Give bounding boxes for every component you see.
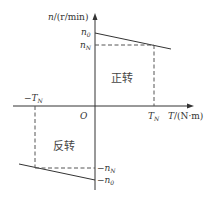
neg-n0-label: −n0 — [97, 175, 114, 186]
reverse-characteristic-line — [19, 164, 95, 180]
y-axis-arrow-icon — [93, 13, 98, 20]
n-t-characteristic-diagram: n/(r/min) T/(N·m) O n0 nN TN −TN −nN −n0… — [0, 0, 209, 198]
forward-characteristic-line — [95, 33, 171, 49]
nN-label: nN — [80, 40, 92, 51]
neg-nN-label: −nN — [97, 163, 116, 174]
x-axis-arrow-icon — [187, 104, 194, 109]
x-axis-label: T/(N·m) — [168, 111, 203, 121]
x-axis — [13, 104, 194, 109]
neg-TN-label: −TN — [24, 93, 44, 104]
reverse-region-label: 反转 — [53, 139, 75, 153]
forward-region-label: 正转 — [111, 71, 133, 85]
TN-label: TN — [148, 111, 160, 122]
n0-label: n0 — [81, 27, 91, 38]
origin-label: O — [80, 111, 88, 121]
y-axis-label: n/(r/min) — [48, 12, 88, 22]
